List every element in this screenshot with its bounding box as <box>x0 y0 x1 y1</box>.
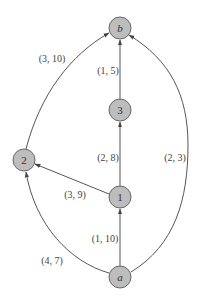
svg-text:2: 2 <box>21 154 27 166</box>
node-3: 3 <box>109 99 131 121</box>
svg-text:b: b <box>117 22 123 34</box>
edge-2-b <box>26 33 109 149</box>
svg-text:3: 3 <box>117 104 123 116</box>
edge-label-1-2: (3, 9) <box>64 189 86 201</box>
edge-label-3-b: (1, 5) <box>97 65 119 77</box>
node-a: a <box>109 266 131 288</box>
node-2: 2 <box>13 149 35 171</box>
edge-label-1-3: (2, 8) <box>97 152 119 164</box>
edge-label-a-2: (4, 7) <box>41 255 63 267</box>
svg-text:a: a <box>117 271 123 283</box>
node-b: b <box>109 17 131 39</box>
svg-text:1: 1 <box>117 191 123 203</box>
edge-a-2 <box>26 172 109 273</box>
node-1: 1 <box>109 186 131 208</box>
edge-label-a-1: (1, 10) <box>92 233 119 245</box>
graph-diagram: (3, 10) (1, 5) (2, 8) (3, 9) (1, 10) (4,… <box>0 0 200 303</box>
edge-label-2-b: (3, 10) <box>39 53 66 65</box>
edge-label-a-b: (2, 3) <box>164 152 186 164</box>
